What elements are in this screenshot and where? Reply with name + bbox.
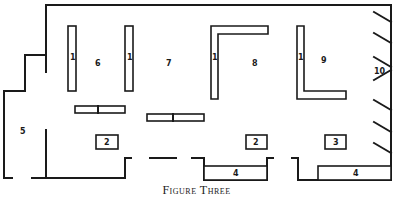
label-area-10: 10	[374, 67, 386, 76]
label-shelf-1d: 1	[298, 53, 304, 62]
tables	[96, 135, 346, 149]
label-area-8: 8	[252, 59, 258, 68]
bottom-wall-right-bay	[292, 158, 318, 180]
label-counter-4b: 4	[353, 169, 359, 178]
shelf-1c-l-shape	[211, 26, 268, 99]
benches	[75, 106, 204, 121]
label-area-6: 6	[95, 59, 101, 68]
bench-left	[75, 106, 125, 113]
label-table-3: 3	[333, 138, 339, 147]
wall-racks	[374, 12, 391, 153]
label-table-2b: 2	[253, 138, 259, 147]
label-area-7: 7	[166, 59, 172, 68]
label-area-9: 9	[321, 56, 327, 65]
figure-caption: Figure Three	[0, 183, 393, 198]
bench-middle	[147, 114, 204, 121]
shelves	[68, 26, 346, 99]
label-shelf-1a: 1	[70, 53, 76, 62]
floor-plan-drawing: 1 1 1 1 6 7 8 9 10 5 2 2 3 4 4	[0, 0, 393, 202]
label-area-5: 5	[20, 127, 26, 136]
stepped-left-wall	[4, 55, 46, 178]
label-shelf-1c: 1	[212, 53, 218, 62]
floor-plan: 1 1 1 1 6 7 8 9 10 5 2 2 3 4 4 Figure Th…	[0, 0, 393, 202]
label-table-2a: 2	[104, 138, 110, 147]
label-counter-4a: 4	[233, 169, 239, 178]
label-shelf-1b: 1	[127, 53, 133, 62]
